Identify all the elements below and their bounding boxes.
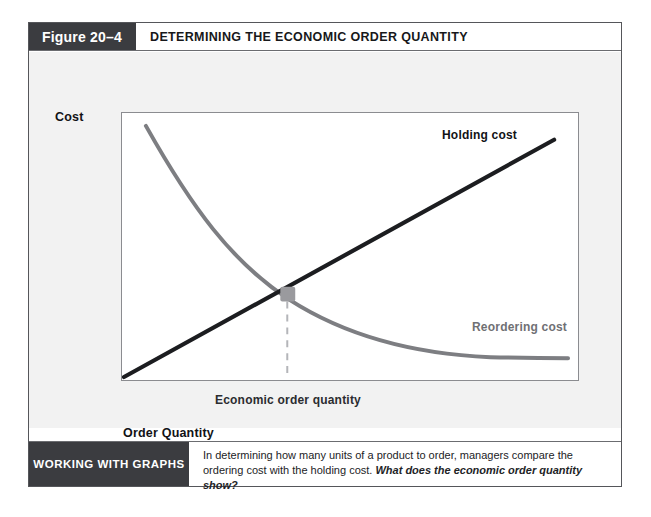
- eoq-marker: [280, 287, 295, 302]
- figure-header: Figure 20–4 DETERMINING THE ECONOMIC ORD…: [29, 23, 621, 51]
- chart-body: Cost Holding cost Reordering cost Econom…: [29, 52, 621, 428]
- caption-bar: WORKING WITH GRAPHS In determining how m…: [29, 441, 621, 486]
- plot-area: Holding cost Reordering cost: [121, 112, 579, 381]
- holding-cost-label: Holding cost: [442, 128, 517, 142]
- reordering-cost-label: Reordering cost: [472, 320, 567, 334]
- figure-number-badge: Figure 20–4: [29, 23, 136, 50]
- x-axis-label: Order Quantity: [123, 426, 214, 440]
- caption-tag: WORKING WITH GRAPHS: [29, 442, 189, 486]
- figure-title: DETERMINING THE ECONOMIC ORDER QUANTITY: [136, 23, 621, 50]
- caption-text: In determining how many units of a produ…: [189, 442, 621, 486]
- plot-svg: [122, 113, 578, 380]
- y-axis-label: Cost: [55, 110, 84, 124]
- figure-container: Figure 20–4 DETERMINING THE ECONOMIC ORD…: [28, 22, 622, 487]
- economic-order-quantity-label: Economic order quantity: [215, 393, 361, 407]
- holding-cost-line: [124, 140, 554, 377]
